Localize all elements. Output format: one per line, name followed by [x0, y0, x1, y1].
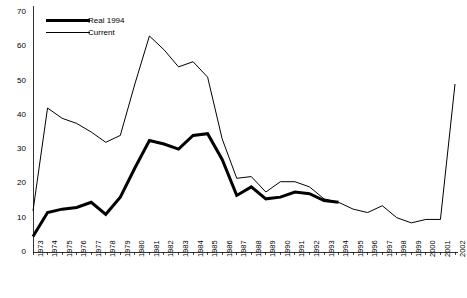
- x-tick-label: 1977: [95, 240, 103, 257]
- x-tick-label: 1999: [415, 240, 423, 257]
- y-tick-label: 20: [6, 179, 26, 187]
- x-tick-label: 1976: [80, 240, 88, 257]
- x-tick-label: 1997: [386, 240, 394, 257]
- series-line-current: [33, 36, 455, 223]
- y-tick-label: 10: [6, 214, 26, 222]
- x-tick-label: 1987: [240, 240, 248, 257]
- x-tick-label: 1994: [342, 240, 350, 257]
- legend-item-current-label: Current: [88, 28, 115, 37]
- x-tick-label: 1995: [357, 240, 365, 257]
- x-tick-label: 1991: [298, 240, 306, 257]
- legend-item-real-1994-label: Real 1994: [88, 16, 124, 25]
- axis-lines: [33, 6, 458, 255]
- x-tick-label: 1992: [313, 240, 321, 257]
- x-tick-label: 1986: [226, 240, 234, 257]
- x-tick-label: 1974: [51, 240, 59, 257]
- x-tick-label: 1985: [211, 240, 219, 257]
- x-tick-label: 1978: [109, 240, 117, 257]
- x-tick-label: 1993: [328, 240, 336, 257]
- x-tick-label: 1980: [138, 240, 146, 257]
- x-tick-label: 1981: [153, 240, 161, 257]
- y-tick-label: 50: [6, 77, 26, 85]
- y-tick-label: 0: [6, 248, 26, 256]
- x-tick-label: 1989: [269, 240, 277, 257]
- y-tick-label: 60: [6, 42, 26, 50]
- x-tick-label: 2001: [444, 240, 452, 257]
- x-tick-label: 1988: [255, 240, 263, 257]
- x-tick-label: 1982: [167, 240, 175, 257]
- y-tick-label: 30: [6, 145, 26, 153]
- x-tick-label: 1984: [197, 240, 205, 257]
- x-tick-label: 1998: [400, 240, 408, 257]
- y-tick-label: 70: [6, 8, 26, 16]
- series-line-real-1994: [33, 134, 339, 237]
- x-tick-label: 1996: [371, 240, 379, 257]
- y-tick-label: 40: [6, 111, 26, 119]
- x-tick-label: 2002: [459, 240, 467, 257]
- legend-swatches: [46, 20, 90, 32]
- x-tick-label: 1973: [37, 240, 45, 257]
- x-tick-label: 1975: [66, 240, 74, 257]
- x-tick-label: 1983: [182, 240, 190, 257]
- x-tick-label: 1979: [124, 240, 132, 257]
- series-lines: [33, 36, 455, 237]
- x-tick-label: 2000: [429, 240, 437, 257]
- x-tick-label: 1990: [284, 240, 292, 257]
